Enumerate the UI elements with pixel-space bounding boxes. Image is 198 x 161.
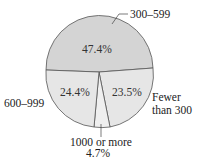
pct-300-599: 47.4% [82, 43, 112, 55]
pct-600-999: 24.4% [60, 86, 90, 98]
slice-600-999 [46, 70, 99, 127]
label-fewer-line2: than 300 [152, 104, 192, 116]
label-600-999: 600–999 [4, 97, 45, 109]
label-300-599: 300–599 [130, 8, 171, 20]
label-1000-line2: 4.7% [86, 147, 110, 159]
pct-fewer-than-300: 23.5% [112, 86, 142, 98]
pie-chart: 47.4% 24.4% 23.5% 300–599 Fewer than 300… [0, 0, 198, 161]
label-fewer-line1: Fewer [152, 91, 181, 103]
